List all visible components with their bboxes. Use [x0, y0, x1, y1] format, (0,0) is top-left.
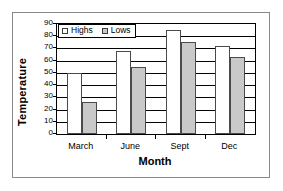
bar-sept-lows: [181, 42, 196, 134]
x-axis-title: Month: [56, 155, 254, 167]
bar-june-highs: [116, 51, 131, 134]
bar-march-highs: [67, 73, 82, 134]
y-axis-tick-label: 90: [31, 19, 53, 27]
legend-label: Highs: [71, 26, 93, 35]
legend-entry-lows: Lows: [102, 26, 131, 35]
x-axis-tick-label-sept: Sept: [170, 141, 189, 151]
bar-chart-figure: Temperature 9080706050403020100 MarchJun…: [12, 12, 270, 178]
y-axis-tick-label: 0: [31, 129, 53, 137]
bar-dec-lows: [230, 57, 245, 134]
y-axis-tick-label: 10: [31, 117, 53, 125]
y-axis-tick-label: 80: [31, 31, 53, 39]
bar-sept-highs: [166, 30, 181, 134]
legend-entry-highs: Highs: [62, 26, 93, 35]
legend-label: Lows: [111, 26, 131, 35]
white-square-icon: [62, 28, 68, 34]
x-axis-tick-label-dec: Dec: [221, 141, 237, 151]
plot-area: [56, 23, 256, 135]
x-axis-tick-mark: [205, 134, 206, 139]
bar-june-lows: [131, 67, 146, 134]
x-axis-tick-mark: [155, 134, 156, 139]
y-axis-tick-label: 60: [31, 56, 53, 64]
gray-square-icon: [102, 28, 108, 34]
y-axis-title-label: Temperature: [16, 58, 28, 126]
x-axis-tick-label-june: June: [120, 141, 140, 151]
bars-layer: [57, 24, 255, 134]
y-axis-tick-label: 50: [31, 68, 53, 76]
x-axis-tick-labels: MarchJuneSeptDec: [56, 141, 256, 153]
y-axis-tick-label: 70: [31, 43, 53, 51]
y-axis-tick-labels: 9080706050403020100: [31, 27, 53, 143]
y-axis-tick-label: 20: [31, 105, 53, 113]
bar-march-lows: [82, 102, 97, 134]
y-axis-tick-label: 40: [31, 80, 53, 88]
chart-legend: HighsLows: [58, 24, 136, 38]
bar-dec-highs: [215, 46, 230, 134]
x-axis-tick-marks: [56, 134, 256, 140]
x-axis-tick-mark: [106, 134, 107, 139]
y-axis-tick-label: 30: [31, 92, 53, 100]
x-axis-tick-label-march: March: [68, 141, 93, 151]
y-axis-title: Temperature: [14, 39, 30, 145]
